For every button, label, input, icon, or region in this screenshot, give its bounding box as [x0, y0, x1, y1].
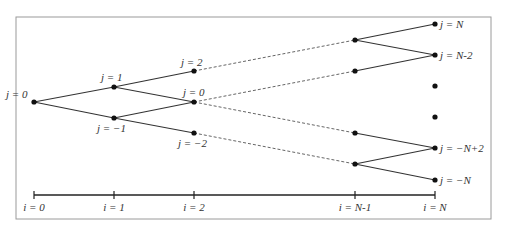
dashed-edge [194, 133, 355, 164]
node-label: j = −2 [176, 137, 207, 149]
axis-tick-label: i = 2 [183, 201, 205, 213]
axis-tick-label: i = N [423, 201, 447, 213]
tree-node [432, 114, 437, 119]
dashed-edge [194, 102, 355, 133]
axis-tick-label: i = N-1 [339, 201, 371, 213]
tree-node [432, 52, 437, 57]
tree-node [432, 177, 437, 182]
dashed-edge [194, 40, 355, 71]
tree-node [111, 84, 116, 89]
tree-edge [114, 118, 194, 133]
tree-node [191, 130, 196, 135]
tree-edge [34, 87, 114, 102]
binomial-tree-diagram: j = 0j = 1j = −1j = 2j = 0j = −2j = Nj =… [0, 0, 506, 232]
dashed-edge [194, 71, 355, 102]
node-label: j = 1 [99, 71, 122, 83]
node-label: j = −1 [95, 122, 126, 134]
tree-edge [355, 24, 435, 40]
tree-node [352, 68, 357, 73]
node-label: j = 0 [181, 86, 205, 98]
node-label: j = −N+2 [438, 142, 484, 154]
node-label: j = N-2 [438, 49, 473, 61]
node-label: j = N [438, 18, 464, 30]
tree-edge [114, 102, 194, 118]
tree-node [352, 37, 357, 42]
tree-edge [355, 164, 435, 180]
tree-edge [355, 55, 435, 71]
tree-node [31, 99, 36, 104]
axis-tick-label: i = 0 [23, 201, 45, 213]
tree-edge [114, 87, 194, 102]
frame-border [16, 17, 491, 219]
tree-node [191, 68, 196, 73]
tree-node [432, 145, 437, 150]
node-label: j = −N [438, 174, 471, 186]
axis-tick-label: i = 1 [103, 201, 124, 213]
tree-node [191, 99, 196, 104]
tree-edge [355, 148, 435, 164]
tree-node [111, 115, 116, 120]
node-label: j = 2 [179, 56, 203, 68]
node-label: j = 0 [4, 88, 28, 100]
tree-edge [355, 40, 435, 55]
tree-node [352, 130, 357, 135]
tree-node [432, 83, 437, 88]
tree-edge [34, 102, 114, 118]
tree-edge [114, 71, 194, 87]
tree-node [352, 161, 357, 166]
tree-node [432, 21, 437, 26]
tree-edge [355, 133, 435, 148]
